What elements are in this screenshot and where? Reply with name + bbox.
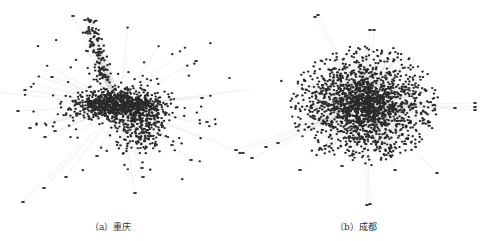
network-panel-chongqing <box>0 0 250 215</box>
network-panel-chengdu <box>230 0 495 215</box>
network-graph-chongqing <box>0 0 250 215</box>
nodes <box>234 14 477 206</box>
nodes <box>0 15 250 203</box>
caption-chengdu: （b）成都 <box>335 220 377 233</box>
network-graph-chengdu <box>230 0 495 215</box>
caption-chongqing: （a）重庆 <box>90 220 131 233</box>
